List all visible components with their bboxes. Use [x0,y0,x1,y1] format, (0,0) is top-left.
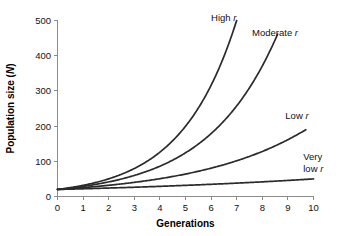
series-label: Very [303,151,322,162]
y-tick-label: 0 [46,191,51,202]
x-tick-label: 8 [260,202,265,213]
population-growth-chart: 0100200300400500012345678910 High rModer… [0,0,343,236]
tick-labels: 0100200300400500012345678910 [35,15,319,213]
x-tick-label: 2 [106,202,111,213]
x-tick-label: 0 [55,202,60,213]
x-axis-title: Generations [156,218,215,229]
x-tick-label: 9 [285,202,290,213]
chart-canvas: 0100200300400500012345678910 High rModer… [0,0,343,236]
x-tick-label: 10 [308,202,319,213]
x-tick-label: 4 [157,202,162,213]
y-tick-label: 400 [35,50,51,61]
x-tick-label: 3 [132,202,137,213]
x-tick-label: 1 [80,202,85,213]
y-tick-label: 200 [35,121,51,132]
tick-marks [54,21,314,201]
growth-curve [58,21,237,190]
series-label: High r [211,12,237,23]
series-label: low r [303,163,324,174]
y-tick-label: 500 [35,15,51,26]
x-tick-label: 7 [234,202,239,213]
y-tick-label: 300 [35,85,51,96]
x-tick-label: 6 [208,202,213,213]
axes [58,21,314,197]
y-tick-label: 100 [35,156,51,167]
series-label: Moderate r [252,27,299,38]
series-label: Low r [285,110,309,121]
growth-curve [58,130,306,190]
x-tick-label: 5 [183,202,188,213]
growth-curve [58,34,278,189]
y-axis-title: Population size (N) [5,63,16,153]
data-curves [58,21,314,190]
